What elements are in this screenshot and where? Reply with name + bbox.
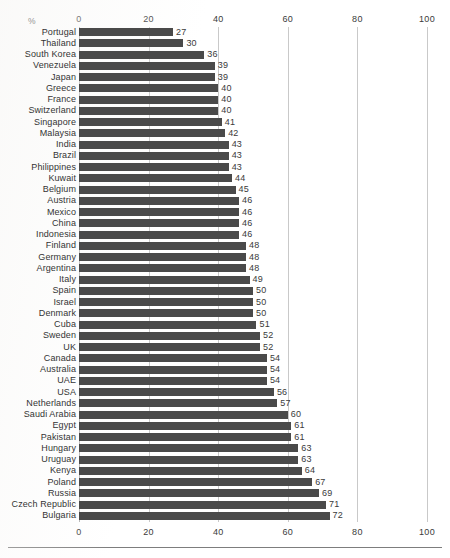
- footer-rule: [8, 547, 442, 548]
- bar-malaysia: [79, 129, 225, 137]
- bar-saudi-arabia: [79, 411, 288, 419]
- bar-value-portugal: 27: [176, 27, 186, 38]
- bar-value-usa: 56: [277, 387, 287, 398]
- chart-row: Egypt61: [0, 421, 450, 431]
- bar-value-brazil: 43: [232, 150, 242, 161]
- bar-value-china: 46: [242, 218, 252, 229]
- chart-row: Indonesia46: [0, 230, 450, 240]
- bar-value-hungary: 63: [301, 443, 311, 454]
- chart-row: Israel50: [0, 297, 450, 307]
- x-tick-label-0: 0: [76, 527, 81, 537]
- bar-chart: % 020406080100 020406080100 Portugal27Th…: [0, 0, 450, 558]
- bar-value-finland: 48: [249, 240, 259, 251]
- category-label-israel: Israel: [53, 297, 76, 308]
- category-label-malaysia: Malaysia: [40, 128, 76, 139]
- chart-row: Pakistan61: [0, 432, 450, 442]
- bar-value-poland: 67: [315, 477, 325, 488]
- chart-row: Germany48: [0, 252, 450, 262]
- category-label-portugal: Portugal: [42, 27, 76, 38]
- bar-value-spain: 50: [256, 285, 266, 296]
- category-label-italy: Italy: [59, 274, 76, 285]
- x-tick-label-60: 60: [282, 14, 293, 24]
- bar-belgium: [79, 186, 236, 194]
- bar-value-uae: 54: [270, 375, 280, 386]
- bar-value-israel: 50: [256, 297, 266, 308]
- chart-row: Belgium45: [0, 185, 450, 195]
- bar-value-australia: 54: [270, 364, 280, 375]
- bar-value-kuwait: 44: [235, 173, 245, 184]
- category-label-philippines: Philippines: [31, 162, 76, 173]
- category-label-indonesia: Indonesia: [36, 229, 76, 240]
- chart-row: Kenya64: [0, 466, 450, 476]
- category-label-poland: Poland: [47, 477, 76, 488]
- bar-philippines: [79, 163, 229, 171]
- category-label-kenya: Kenya: [50, 465, 76, 476]
- chart-row: Philippines43: [0, 162, 450, 172]
- bar-greece: [79, 84, 218, 92]
- chart-row: Netherlands57: [0, 398, 450, 408]
- category-label-singapore: Singapore: [34, 117, 76, 128]
- category-label-pakistan: Pakistan: [41, 432, 76, 443]
- bar-poland: [79, 478, 312, 486]
- x-axis-top: 020406080100: [0, 14, 450, 26]
- category-label-hungary: Hungary: [41, 443, 76, 454]
- bar-thailand: [79, 39, 183, 47]
- bar-china: [79, 219, 239, 227]
- category-label-egypt: Egypt: [52, 420, 76, 431]
- chart-row: UAE54: [0, 376, 450, 386]
- bar-kenya: [79, 467, 302, 475]
- chart-row: Hungary63: [0, 443, 450, 453]
- bar-mexico: [79, 208, 239, 216]
- bar-argentina: [79, 264, 246, 272]
- category-label-germany: Germany: [38, 252, 76, 263]
- chart-row: Australia54: [0, 365, 450, 375]
- chart-row: Argentina48: [0, 263, 450, 273]
- category-label-czech-republic: Czech Republic: [12, 499, 76, 510]
- chart-row: Italy49: [0, 275, 450, 285]
- bar-japan: [79, 73, 215, 81]
- chart-row: Uruguay63: [0, 455, 450, 465]
- bar-czech-republic: [79, 501, 326, 509]
- bar-value-japan: 39: [218, 72, 228, 83]
- category-label-cuba: Cuba: [54, 319, 76, 330]
- chart-row: Thailand30: [0, 38, 450, 48]
- chart-row: Singapore41: [0, 117, 450, 127]
- bar-value-bulgaria: 72: [333, 510, 343, 521]
- bar-russia: [79, 489, 319, 497]
- bar-cuba: [79, 321, 256, 329]
- chart-row: Saudi Arabia60: [0, 410, 450, 420]
- category-label-brazil: Brazil: [53, 150, 76, 161]
- bar-australia: [79, 366, 267, 374]
- chart-row: Czech Republic71: [0, 500, 450, 510]
- category-label-uae: UAE: [57, 375, 76, 386]
- chart-row: Venezuela39: [0, 61, 450, 71]
- category-label-venezuela: Venezuela: [33, 60, 76, 71]
- category-label-bulgaria: Bulgaria: [42, 510, 76, 521]
- chart-row: Japan39: [0, 72, 450, 82]
- bar-canada: [79, 354, 267, 362]
- x-tick-label-60: 60: [282, 527, 293, 537]
- bar-bulgaria: [79, 512, 330, 520]
- bar-singapore: [79, 118, 222, 126]
- bar-uae: [79, 377, 267, 385]
- bar-spain: [79, 287, 253, 295]
- x-tick-label-100: 100: [419, 14, 435, 24]
- x-tick-label-40: 40: [213, 527, 224, 537]
- bar-finland: [79, 242, 246, 250]
- category-label-greece: Greece: [46, 83, 76, 94]
- category-label-netherlands: Netherlands: [26, 398, 76, 409]
- chart-row: South Korea36: [0, 50, 450, 60]
- bar-value-malaysia: 42: [228, 128, 238, 139]
- bar-italy: [79, 276, 250, 284]
- category-label-finland: Finland: [46, 240, 76, 251]
- chart-row: Poland67: [0, 477, 450, 487]
- bar-egypt: [79, 422, 291, 430]
- bar-value-denmark: 50: [256, 308, 266, 319]
- chart-row: Malaysia42: [0, 128, 450, 138]
- x-tick-label-20: 20: [143, 14, 154, 24]
- bar-value-belgium: 45: [239, 184, 249, 195]
- bar-denmark: [79, 309, 253, 317]
- category-label-canada: Canada: [44, 353, 76, 364]
- bar-uk: [79, 343, 260, 351]
- bar-france: [79, 96, 218, 104]
